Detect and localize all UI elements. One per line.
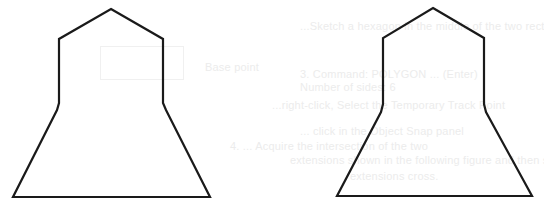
figure-canvas: ...Sketch a hexagon in the middle of the… xyxy=(0,0,544,210)
left-polygon-shape xyxy=(13,9,210,197)
right-polygon-shape xyxy=(337,8,532,196)
shapes-svg xyxy=(0,0,544,210)
